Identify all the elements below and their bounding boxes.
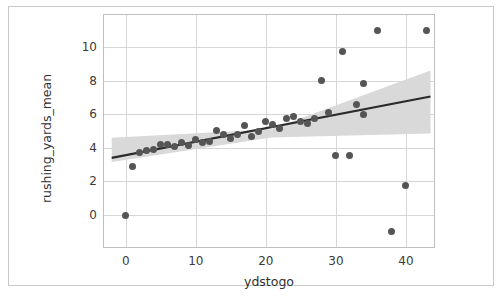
x-tick-label: 40 bbox=[386, 255, 426, 267]
data-point bbox=[143, 147, 150, 154]
regression-line bbox=[104, 15, 434, 247]
y-tick-label: 2 bbox=[73, 175, 97, 187]
y-tick-label: 10 bbox=[73, 41, 97, 53]
y-axis-ticklabels: 0246810 bbox=[71, 0, 97, 296]
data-point bbox=[122, 212, 129, 219]
y-tick-label: 4 bbox=[73, 142, 97, 154]
plot-area bbox=[103, 14, 435, 248]
y-axis-label: rushing_yards_mean bbox=[39, 59, 54, 219]
data-point bbox=[241, 122, 248, 129]
y-tick-label: 0 bbox=[73, 209, 97, 221]
data-point bbox=[234, 131, 241, 138]
x-tick-label: 20 bbox=[246, 255, 286, 267]
x-axis-ticklabels: 010203040 bbox=[0, 255, 504, 271]
x-tick-label: 30 bbox=[316, 255, 356, 267]
data-point bbox=[255, 128, 262, 135]
data-point bbox=[157, 141, 164, 148]
x-tick-label: 10 bbox=[176, 255, 216, 267]
x-axis-label: ydstogo bbox=[103, 274, 435, 289]
y-tick-label: 8 bbox=[73, 75, 97, 87]
y-tick-label: 6 bbox=[73, 108, 97, 120]
figure-canvas: 0246810 010203040 ydstogo rushing_yards_… bbox=[0, 0, 504, 296]
x-tick-label: 0 bbox=[106, 255, 146, 267]
